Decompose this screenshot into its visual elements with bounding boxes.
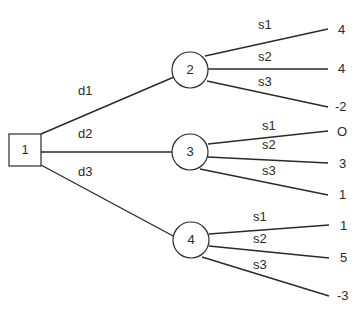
decision-node-1-label: 1 — [21, 142, 28, 157]
decision-label-d1: d1 — [78, 83, 92, 98]
payoff-node2-s3: -2 — [335, 99, 347, 114]
edge-node4-s2 — [209, 246, 329, 258]
state-label-node4-s3: s3 — [253, 257, 267, 272]
state-label-node2-s2: s2 — [258, 49, 272, 64]
payoff-node3-s2: 3 — [339, 156, 346, 171]
chance-node-2-label: 2 — [186, 62, 193, 77]
state-label-node4-s1: s1 — [253, 209, 267, 224]
payoff-node4-s1: 1 — [340, 218, 347, 233]
chance-node-4-label: 4 — [187, 232, 194, 247]
chance-node-3: 3 — [172, 134, 208, 170]
state-label-node3-s1: s1 — [262, 118, 276, 133]
payoff-node2-s1: 4 — [338, 22, 345, 37]
payoff-node2-s2: 4 — [338, 61, 345, 76]
payoff-node3-s1: O — [337, 124, 347, 139]
payoff-node4-s3: -3 — [337, 288, 349, 303]
state-label-node4-s2: s2 — [253, 231, 267, 246]
edge-node3-s2 — [208, 157, 328, 163]
chance-node-4: 4 — [173, 222, 209, 258]
edge-d1 — [41, 77, 174, 134]
decision-tree-diagram: d1 d2 d3 s1 s2 s3 4 4 -2 s1 s2 s3 O 3 1 … — [0, 0, 361, 314]
decision-label-d3: d3 — [78, 164, 92, 179]
state-label-node2-s1: s1 — [258, 17, 272, 32]
decision-label-d2: d2 — [78, 126, 92, 141]
payoff-node4-s2: 5 — [340, 250, 347, 265]
chance-node-2: 2 — [172, 52, 208, 88]
chance-node-3-label: 3 — [186, 144, 193, 159]
state-label-node2-s3: s3 — [258, 74, 272, 89]
edge-node4-s1 — [209, 225, 329, 234]
decision-node-1: 1 — [9, 134, 41, 166]
payoff-node3-s3: 1 — [339, 187, 346, 202]
edge-d3 — [41, 165, 175, 237]
state-label-node3-s2: s2 — [262, 137, 276, 152]
state-label-node3-s3: s3 — [262, 163, 276, 178]
